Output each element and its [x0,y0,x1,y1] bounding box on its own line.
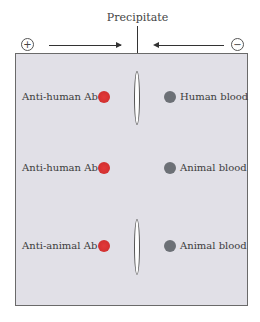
row-1-precipitate-arc [134,71,140,125]
row-1-right-label: Human blood [180,91,248,102]
row-3-precipitate-arc [134,219,140,275]
row-3-antigen-dot [164,240,176,252]
row-2-antibody-dot [98,162,110,174]
row-2-left-label: Anti-human Ab [22,162,98,173]
row-2-antigen-dot [164,162,176,174]
precipitate-label: Precipitate [0,11,260,24]
row-3-right-label: Animal blood [180,240,247,251]
row-3-left-label: Anti-animal Ab [22,240,97,251]
row-1-left-label: Anti-human Ab [22,91,98,102]
row-1-antibody-dot [98,91,110,103]
row-3-antibody-dot [98,240,110,252]
row-2-right-label: Animal blood [180,162,247,173]
arrow-right [49,45,121,46]
cathode-icon: − [231,38,244,51]
arrow-right-head-icon [116,42,122,48]
arrow-left [158,45,224,46]
anode-icon: + [21,38,34,51]
row-1-antigen-dot [164,91,176,103]
